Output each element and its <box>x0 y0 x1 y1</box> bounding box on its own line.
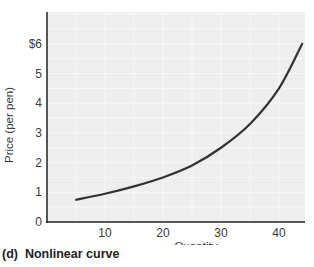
caption-text: Nonlinear curve <box>25 247 119 261</box>
y-tick-label: $6 <box>29 37 43 51</box>
caption-label: (d) <box>2 247 18 261</box>
x-tick-label: 20 <box>156 226 170 240</box>
y-tick-label: 4 <box>35 96 42 110</box>
y-tick-label: 1 <box>35 185 42 199</box>
y-tick-label: 2 <box>35 156 42 170</box>
x-axis-ticks: 10203040 <box>98 226 286 240</box>
x-axis-label: Quantity <box>175 240 218 245</box>
x-tick-label: 30 <box>214 226 228 240</box>
y-tick-label: 0 <box>35 215 42 229</box>
y-axis-label: Price (per pen) <box>3 87 15 163</box>
y-axis-ticks: 012345$6 <box>29 37 43 229</box>
x-tick-label: 40 <box>272 226 286 240</box>
y-tick-label: 5 <box>35 67 42 81</box>
figure-caption: (d) Nonlinear curve <box>2 247 119 261</box>
y-tick-label: 3 <box>35 126 42 140</box>
x-tick-label: 10 <box>98 226 112 240</box>
nonlinear-curve-chart: 012345$6 10203040 Price (per pen) Quanti… <box>0 0 314 245</box>
